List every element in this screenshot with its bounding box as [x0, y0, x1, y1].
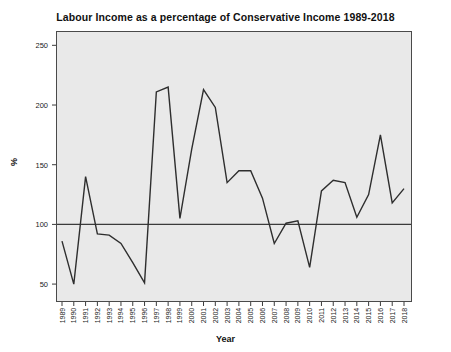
x-tick-label: 2000 [188, 308, 195, 323]
x-tick-label: 1996 [141, 308, 148, 323]
x-tick-label: 2018 [401, 308, 408, 323]
x-tick-label: 2007 [271, 308, 278, 323]
x-tick-label: 1989 [59, 308, 66, 323]
x-tick-label: 2011 [318, 308, 325, 323]
x-tick-label: 2002 [212, 308, 219, 323]
x-tick-marks [62, 302, 404, 306]
plot-area [56, 31, 412, 302]
x-tick-label: 2016 [377, 308, 384, 323]
x-tick-label: 1994 [117, 308, 124, 323]
x-tick-label: 2001 [200, 308, 207, 323]
x-tick-label: 1991 [82, 308, 89, 323]
x-tick-label: 1993 [106, 308, 113, 323]
y-axis-label: % [9, 158, 19, 166]
x-axis-label: Year [0, 334, 451, 344]
x-tick-label: 2010 [306, 308, 313, 323]
x-tick-label: 2003 [224, 308, 231, 323]
x-tick-label: 2008 [283, 308, 290, 323]
x-tick-label: 1995 [129, 308, 136, 323]
x-tick-label: 2005 [247, 308, 254, 323]
x-tick-label: 2012 [330, 308, 337, 323]
y-tick-label: 150 [20, 160, 48, 169]
x-tick-label: 1990 [70, 308, 77, 323]
x-tick-label: 2013 [342, 308, 349, 323]
x-tick-label: 1997 [153, 308, 160, 323]
x-tick-label: 2014 [353, 308, 360, 323]
x-tick-label: 2004 [235, 308, 242, 323]
x-tick-label: 2006 [259, 308, 266, 323]
x-tick-label: 2015 [365, 308, 372, 323]
y-tick-label: 100 [20, 220, 48, 229]
chart-figure: Labour Income as a percentage of Conserv… [0, 0, 451, 352]
y-tick-label: 50 [20, 280, 48, 289]
x-tick-label: 1999 [176, 308, 183, 323]
x-tick-label: 1992 [94, 308, 101, 323]
y-tick-label: 250 [20, 41, 48, 50]
x-tick-label: 2009 [294, 308, 301, 323]
chart-title: Labour Income as a percentage of Conserv… [0, 11, 451, 23]
x-tick-label: 2017 [389, 308, 396, 323]
x-tick-label: 1998 [165, 308, 172, 323]
y-tick-label: 200 [20, 101, 48, 110]
